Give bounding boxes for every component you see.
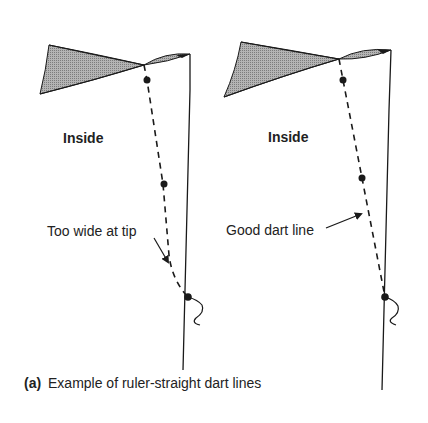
right-dot-middle — [359, 175, 366, 182]
dart-lines-diagram: Inside Too wide at tip Inside Good dart … — [0, 0, 428, 423]
left-annotation-arrow — [154, 238, 168, 262]
left-seam-line — [183, 54, 190, 370]
left-thread-tail — [188, 297, 203, 325]
left-dart-line — [144, 65, 188, 297]
right-dart-shading — [224, 42, 339, 97]
right-annotation-text: Good dart line — [226, 222, 314, 238]
left-annotation-text: Too wide at tip — [47, 223, 137, 239]
right-seam-line — [382, 50, 391, 390]
right-dot-top — [340, 77, 347, 84]
left-dot-top — [144, 77, 151, 84]
caption-letter: (a) — [24, 375, 41, 391]
caption-text: Example of ruler-straight dart lines — [48, 375, 261, 391]
left-inside-label: Inside — [63, 130, 104, 146]
left-dot-middle — [161, 181, 168, 188]
left-panel: Inside Too wide at tip — [40, 45, 203, 370]
right-panel: Inside Good dart line — [224, 42, 398, 390]
right-inside-label: Inside — [268, 129, 309, 145]
figure-caption: (a) Example of ruler-straight dart lines — [24, 375, 261, 391]
right-thread-tail — [385, 297, 398, 325]
right-annotation-arrow — [326, 214, 361, 228]
